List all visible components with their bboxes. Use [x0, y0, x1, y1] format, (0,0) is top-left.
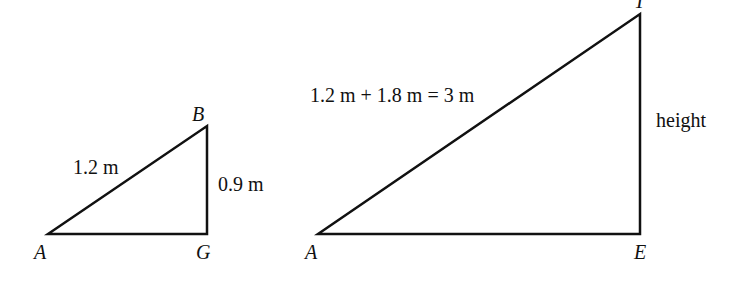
large-vertical-label: height	[656, 110, 706, 130]
diagram-canvas: B A G 1.2 m 0.9 m T A E 1.2 m + 1.8 m = …	[0, 0, 746, 286]
vertex-label-t: T	[634, 0, 645, 11]
large-triangle	[318, 14, 640, 234]
vertex-label-a-small: A	[34, 242, 46, 262]
vertex-label-b: B	[192, 104, 204, 124]
vertex-label-a-large: A	[305, 242, 317, 262]
small-triangle	[48, 126, 207, 234]
vertex-label-e: E	[634, 242, 646, 262]
small-hypotenuse-label: 1.2 m	[73, 157, 119, 177]
small-vertical-label: 0.9 m	[218, 174, 264, 194]
vertex-label-g: G	[196, 242, 210, 262]
large-hypotenuse-label: 1.2 m + 1.8 m = 3 m	[310, 85, 474, 105]
